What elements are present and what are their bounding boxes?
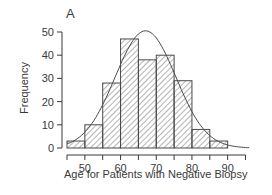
y-tick-label: 10	[42, 119, 54, 131]
histogram-bar	[156, 55, 174, 148]
x-axis-label: Age for Patients with Negative Biopsy	[64, 168, 247, 180]
histogram-chart: 01020304050 5060708090	[0, 0, 272, 195]
histogram-bar	[174, 81, 192, 148]
y-tick-label: 30	[42, 72, 54, 84]
histogram-bars	[67, 39, 228, 148]
y-tick-label: 0	[48, 142, 54, 154]
y-axis: 01020304050	[42, 26, 62, 154]
histogram-bar	[138, 60, 156, 148]
y-axis-label: Frequency	[18, 58, 30, 118]
histogram-bar	[85, 125, 103, 148]
y-tick-label: 40	[42, 49, 54, 61]
chart-title: A	[66, 6, 75, 21]
histogram-bar	[192, 129, 210, 148]
y-tick-label: 50	[42, 26, 54, 38]
histogram-bar	[67, 141, 85, 148]
y-tick-label: 20	[42, 96, 54, 108]
histogram-bar	[103, 83, 121, 148]
histogram-bar	[121, 39, 139, 148]
